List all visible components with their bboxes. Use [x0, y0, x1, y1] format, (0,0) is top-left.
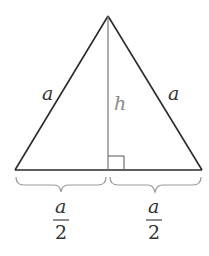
left-side [15, 16, 108, 170]
left-brace [16, 177, 106, 192]
right-half-denominator: 2 [148, 221, 160, 243]
height-label: h [114, 92, 126, 114]
left-half-denominator: 2 [55, 221, 67, 243]
left-half-numerator: a [55, 195, 66, 217]
triangle-diagram: a a h a 2 a 2 [0, 0, 209, 256]
diagram-svg [0, 0, 209, 256]
right-side-label: a [168, 82, 179, 104]
left-side-label: a [42, 82, 53, 104]
right-half-numerator: a [148, 195, 159, 217]
right-brace [110, 177, 201, 192]
right-angle-marker [108, 156, 124, 170]
